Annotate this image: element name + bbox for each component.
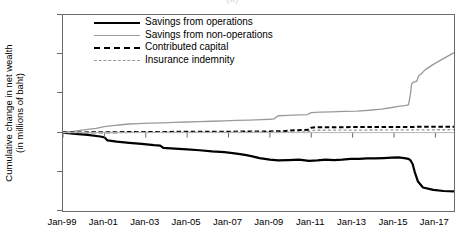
legend-item[interactable]: Contributed capital [94, 41, 273, 54]
legend-item-label: Savings from operations [145, 16, 253, 29]
x-axis-tickmarks [63, 133, 454, 138]
legend-item-label: Savings from non-operations [145, 29, 273, 42]
x-tick-label: Jan-17 [404, 216, 464, 227]
legend-swatch-icon [94, 17, 140, 27]
y-axis-title: Cumulative change in net wealth (in mill… [3, 13, 25, 213]
legend-swatch-icon [94, 30, 140, 40]
series-line [63, 127, 454, 133]
y-tick-mark [57, 132, 62, 133]
chart-legend: Savings from operationsSavings from non-… [94, 16, 273, 66]
series-layer [63, 53, 454, 192]
y-tick-mark [57, 53, 62, 54]
y-tick-mark [57, 14, 62, 15]
legend-item[interactable]: Savings from non-operations [94, 29, 273, 42]
legend-item[interactable]: Savings from operations [94, 16, 273, 29]
series-line [63, 133, 454, 192]
legend-item-label: Contributed capital [145, 41, 228, 54]
figure-container: (b) Cumulative change in net wealth (in … [0, 0, 465, 240]
legend-item[interactable]: Insurance indemnity [94, 54, 273, 67]
legend-item-label: Insurance indemnity [145, 54, 235, 67]
y-tick-mark [57, 171, 62, 172]
y-tick-mark [57, 210, 62, 211]
y-tick-mark [57, 92, 62, 93]
legend-swatch-icon [94, 55, 140, 65]
legend-swatch-icon [94, 42, 140, 52]
figure-caption-remnant: (b) [0, 0, 465, 4]
